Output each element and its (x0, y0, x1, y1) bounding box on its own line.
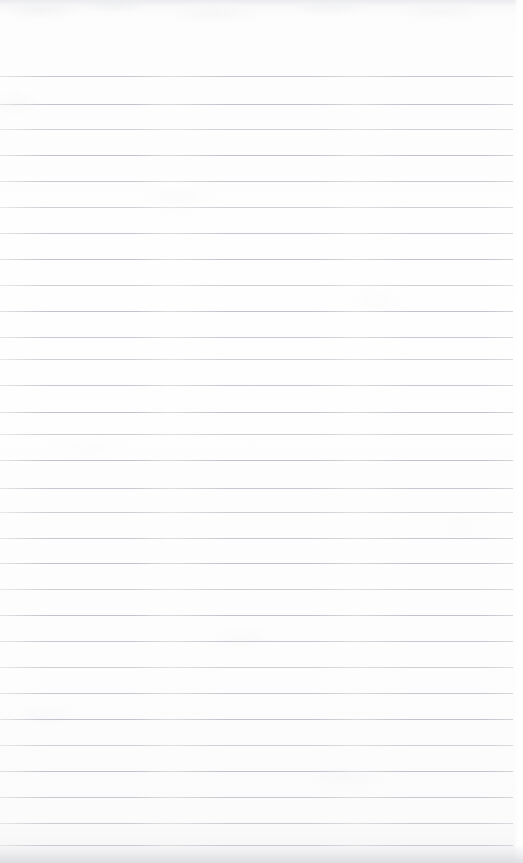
rule-line (0, 797, 513, 798)
rule-line (0, 563, 513, 564)
scanned-page (0, 0, 523, 863)
rule-line (0, 693, 513, 694)
rule-line (0, 76, 513, 77)
rule-line (0, 823, 513, 824)
rule-line (0, 845, 513, 846)
rule-line (0, 538, 513, 539)
rule-line (0, 285, 513, 286)
rule-line (0, 104, 513, 105)
rule-line (0, 667, 513, 668)
rule-line (0, 460, 513, 461)
rule-line (0, 488, 513, 489)
rule-line (0, 233, 513, 234)
rule-line (0, 311, 513, 312)
rule-line (0, 589, 513, 590)
rule-line (0, 385, 513, 386)
rule-line (0, 434, 513, 435)
rule-line (0, 359, 513, 360)
rule-line (0, 771, 513, 772)
rule-line (0, 641, 513, 642)
rule-line (0, 719, 513, 720)
rule-line (0, 745, 513, 746)
rule-line (0, 155, 513, 156)
rule-line (0, 337, 513, 338)
rule-line (0, 615, 513, 616)
rule-line (0, 512, 513, 513)
rule-line (0, 259, 513, 260)
rule-line (0, 129, 513, 130)
rule-line (0, 207, 513, 208)
rule-line (0, 412, 513, 413)
rule-line (0, 181, 513, 182)
ruled-lines-layer (0, 0, 523, 863)
